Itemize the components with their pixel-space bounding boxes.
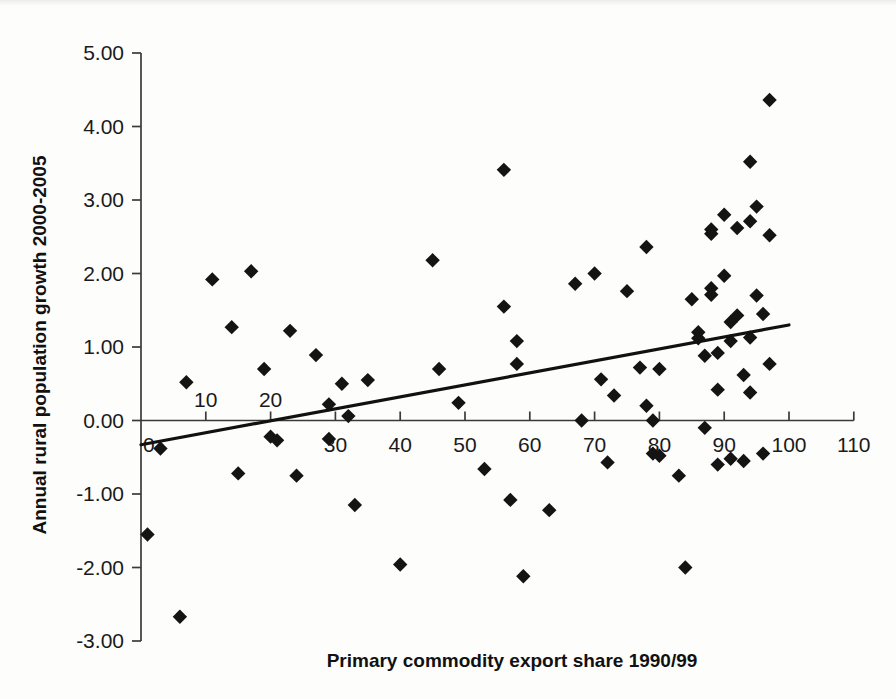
data-point-marker [335, 377, 349, 391]
data-point-marker [309, 348, 323, 362]
data-point-marker [594, 372, 608, 386]
data-point-marker [283, 324, 297, 338]
data-point-marker [348, 498, 362, 512]
x-tick-label: 40 [389, 433, 412, 456]
data-point-marker [698, 421, 712, 435]
data-point-marker [477, 462, 491, 476]
data-point-marker [503, 493, 517, 507]
data-point-marker [711, 382, 725, 396]
figure-container: -3.00-2.00-1.000.001.002.003.004.005.00 … [0, 0, 896, 699]
x-tick-label: 20 [259, 388, 282, 411]
data-point-marker [672, 468, 686, 482]
x-tick-label: 110 [837, 433, 870, 456]
data-point-marker [646, 413, 660, 427]
y-tick-label: 0.00 [83, 409, 124, 432]
data-point-marker [749, 288, 763, 302]
y-tick-label: -2.00 [76, 556, 124, 579]
data-point-marker [173, 610, 187, 624]
data-point-marker [510, 357, 524, 371]
data-point-marker [257, 362, 271, 376]
data-point-marker [140, 527, 154, 541]
y-tick-label: 3.00 [83, 188, 124, 211]
data-point-marker [743, 155, 757, 169]
data-point-marker [756, 307, 770, 321]
data-point-marker [639, 399, 653, 413]
data-point-marker [510, 334, 524, 348]
y-tick-label: 4.00 [83, 115, 124, 138]
data-point-marker [497, 163, 511, 177]
data-point-marker [361, 373, 375, 387]
y-tick-label: -3.00 [76, 629, 124, 652]
data-point-marker [756, 446, 770, 460]
data-point-marker [516, 569, 530, 583]
data-point-marker [574, 413, 588, 427]
x-tick-label: 70 [583, 433, 606, 456]
data-point-marker [652, 362, 666, 376]
data-point-marker [289, 468, 303, 482]
data-point-marker [432, 362, 446, 376]
trend-line [141, 325, 789, 445]
x-tick-label: 100 [771, 433, 806, 456]
data-point-marker [497, 299, 511, 313]
data-point-marker [451, 396, 465, 410]
data-point-marker [639, 240, 653, 254]
data-point-marker [762, 357, 776, 371]
data-point-marker [244, 264, 258, 278]
x-tick-label: 60 [518, 433, 541, 456]
data-point-marker [225, 320, 239, 334]
data-point-marker [542, 503, 556, 517]
data-point-marker [762, 93, 776, 107]
data-point-marker [749, 199, 763, 213]
scatter-plot: -3.00-2.00-1.000.001.002.003.004.005.00 … [0, 0, 896, 699]
data-point-marker [393, 557, 407, 571]
data-point-marker [736, 454, 750, 468]
data-point-marker [743, 385, 757, 399]
data-point-marker [717, 208, 731, 222]
x-tick-label: 50 [453, 433, 476, 456]
data-point-marker [743, 214, 757, 228]
data-point-marker [685, 292, 699, 306]
data-point-marker [568, 277, 582, 291]
x-tick-label: 10 [194, 388, 217, 411]
data-point-marker [678, 560, 692, 574]
data-point-marker [205, 272, 219, 286]
x-tick-label: 90 [713, 433, 736, 456]
data-point-marker [600, 455, 614, 469]
trendline [141, 325, 789, 445]
y-tick-label: 5.00 [83, 41, 124, 64]
x-axis: 0102030405060708090100110 [141, 388, 871, 456]
y-axis-title: Annual rural population growth 2000-2005 [29, 155, 50, 534]
data-point-marker [179, 375, 193, 389]
data-point-marker [762, 228, 776, 242]
data-point-marker [425, 253, 439, 267]
data-point-marker [698, 349, 712, 363]
data-point-marker [587, 266, 601, 280]
data-point-marker [730, 221, 744, 235]
y-tick-label: 2.00 [83, 262, 124, 285]
data-point-marker [620, 284, 634, 298]
data-point-marker [633, 360, 647, 374]
y-tick-label: -1.00 [76, 482, 124, 505]
data-point-marker [711, 346, 725, 360]
data-point-marker [607, 388, 621, 402]
data-point-marker [717, 269, 731, 283]
data-point-marker [711, 457, 725, 471]
data-points [140, 93, 776, 624]
x-axis-title: Primary commodity export share 1990/99 [327, 650, 698, 671]
y-tick-label: 1.00 [83, 335, 124, 358]
data-point-marker [736, 368, 750, 382]
y-axis: -3.00-2.00-1.000.001.002.003.004.005.00 [76, 41, 141, 652]
data-point-marker [231, 466, 245, 480]
